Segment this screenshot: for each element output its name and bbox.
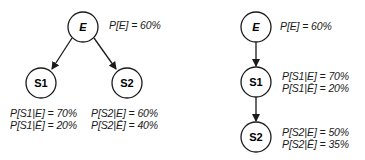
node-s1-right: S1 — [241, 67, 271, 97]
right-network: E S1 S2 — [241, 12, 271, 152]
right-prob-s2-given-e: P[S2|E] = 50% — [282, 126, 349, 138]
node-s2-left: S2 — [112, 68, 142, 98]
edge-e-to-s2-left — [94, 38, 116, 69]
right-prob-s2-given-not-e: P[S2|Ē] = 35% — [282, 138, 349, 150]
svg-text:S1: S1 — [34, 77, 47, 89]
left-prob-s1-given-not-e: P[S1|Ē] = 20% — [10, 119, 77, 131]
right-prob-e: P[E] = 60% — [280, 20, 332, 32]
left-prob-s2-given-not-e: P[S2|Ē] = 40% — [91, 119, 158, 131]
left-prob-e: P[E] = 60% — [109, 19, 161, 31]
svg-text:S1: S1 — [249, 76, 262, 88]
right-prob-s1-given-e: P[S1|E] = 70% — [282, 70, 349, 82]
node-e-right: E — [241, 12, 271, 42]
left-prob-s1-given-e: P[S1|E] = 70% — [10, 107, 77, 119]
svg-text:S2: S2 — [120, 77, 133, 89]
svg-text:E: E — [79, 21, 87, 33]
edge-e-to-s1-left — [52, 38, 72, 69]
right-prob-s1-given-not-e: P[S1|Ē] = 20% — [282, 82, 349, 94]
left-prob-s2-given-e: P[S2|E] = 60% — [91, 107, 158, 119]
node-e-left: E — [68, 12, 98, 42]
svg-text:S2: S2 — [249, 131, 262, 143]
svg-text:E: E — [252, 21, 260, 33]
node-s2-right: S2 — [241, 122, 271, 152]
node-s1-left: S1 — [26, 68, 56, 98]
